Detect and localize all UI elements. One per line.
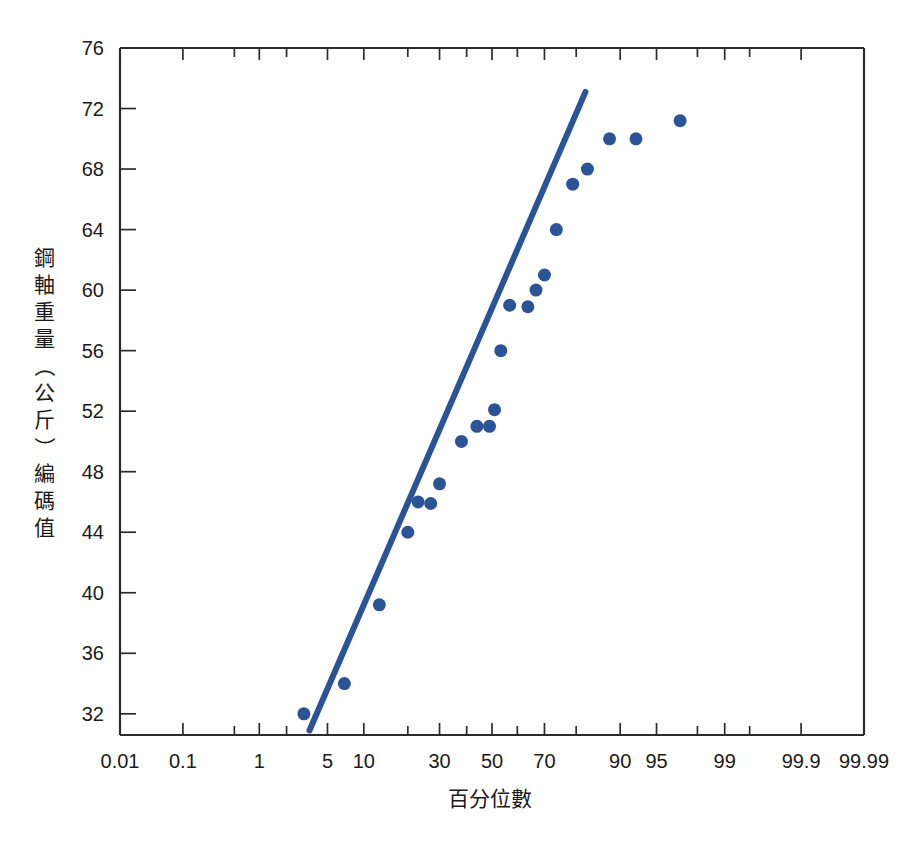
data-point	[483, 420, 496, 433]
y-tick-label: 68	[82, 158, 104, 180]
data-point	[494, 344, 507, 357]
x-axis-tick-labels: 0.010.1151030507090959999.999.99	[101, 750, 890, 772]
data-point	[338, 677, 351, 690]
data-point	[424, 497, 437, 510]
x-tick-label: 99.99	[839, 750, 889, 772]
x-tick-label: 50	[481, 750, 503, 772]
plot-canvas: 0.010.1151030507090959999.999.99 3236404…	[0, 0, 920, 850]
y-axis-title-char: 重	[34, 300, 55, 324]
data-point	[550, 223, 563, 236]
axes-frame	[120, 48, 864, 735]
x-tick-label: 99.9	[782, 750, 821, 772]
x-axis-ticks	[120, 48, 864, 735]
y-axis-title-char: 公	[34, 381, 55, 405]
x-tick-label: 95	[645, 750, 667, 772]
y-axis-title-char: 量	[34, 327, 55, 351]
y-axis-title-char: 編	[34, 462, 55, 486]
x-tick-label: 90	[609, 750, 631, 772]
data-point	[433, 477, 446, 490]
data-point	[538, 268, 551, 281]
data-point	[603, 132, 616, 145]
data-point	[373, 598, 386, 611]
data-point	[503, 299, 516, 312]
y-axis-ticks	[120, 109, 136, 714]
y-tick-label: 64	[82, 219, 104, 241]
data-point	[455, 435, 468, 448]
y-tick-label: 32	[82, 703, 104, 725]
y-tick-label: 40	[82, 582, 104, 604]
y-axis-title-char: 值	[34, 516, 55, 540]
y-tick-label: 60	[82, 279, 104, 301]
data-point	[401, 526, 414, 539]
x-axis-minor-ticks	[234, 48, 749, 735]
x-tick-label: 0.01	[101, 750, 140, 772]
y-tick-label: 52	[82, 400, 104, 422]
x-tick-label: 70	[533, 750, 555, 772]
y-axis-title-char: （	[32, 356, 56, 377]
y-axis-title-char: ）	[32, 437, 56, 458]
probability-plot-figure: 0.010.1151030507090959999.999.99 3236404…	[0, 0, 920, 850]
data-point	[674, 114, 687, 127]
x-axis-title: 百分位數	[448, 787, 532, 811]
y-axis-title-char: 斤	[34, 408, 55, 432]
data-point	[297, 707, 310, 720]
x-tick-label: 10	[353, 750, 375, 772]
x-tick-label: 1	[254, 750, 265, 772]
y-axis-title-char: 碼	[34, 489, 55, 513]
data-point	[566, 178, 579, 191]
data-point	[521, 300, 534, 313]
axis-spines	[120, 48, 864, 735]
y-axis-title-char: 軸	[34, 273, 55, 297]
x-tick-label: 30	[428, 750, 450, 772]
y-tick-label: 44	[82, 521, 104, 543]
x-tick-label: 0.1	[169, 750, 197, 772]
data-point	[530, 284, 543, 297]
reference-fit-line	[309, 92, 585, 731]
data-point	[412, 495, 425, 508]
y-axis-tick-labels: 323640444852566064687276	[82, 37, 104, 725]
y-axis-title: 鋼軸重量（公斤）編碼值	[32, 246, 56, 540]
y-tick-label: 72	[82, 98, 104, 120]
data-point	[629, 132, 642, 145]
y-axis-title-char: 鋼	[34, 246, 55, 270]
data-point	[581, 163, 594, 176]
x-tick-label: 99	[714, 750, 736, 772]
y-tick-label: 48	[82, 461, 104, 483]
y-tick-label: 76	[82, 37, 104, 59]
y-tick-label: 56	[82, 340, 104, 362]
x-tick-label: 5	[322, 750, 333, 772]
data-point	[488, 403, 501, 416]
data-point	[470, 420, 483, 433]
y-tick-label: 36	[82, 642, 104, 664]
